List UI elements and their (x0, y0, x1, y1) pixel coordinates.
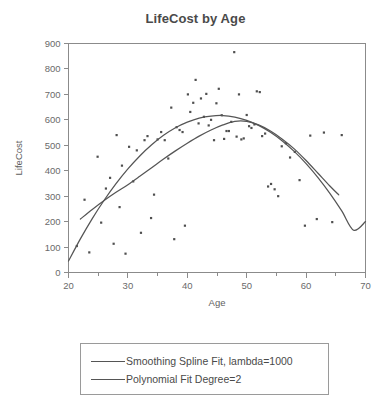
data-point (240, 138, 242, 140)
data-point (105, 187, 107, 189)
x-tick-label: 50 (241, 280, 252, 291)
data-point (248, 125, 250, 127)
data-point (197, 122, 199, 124)
data-point (192, 102, 194, 104)
data-point (205, 93, 207, 95)
data-point (259, 91, 261, 93)
data-point (341, 134, 343, 136)
data-point (113, 243, 115, 245)
data-point (215, 102, 217, 104)
legend-swatch-spline (91, 361, 125, 362)
data-point (195, 79, 197, 81)
legend-label-polynomial: Polynomial Fit Degree=2 (126, 373, 241, 385)
data-point (298, 179, 300, 181)
y-tick-label: 500 (45, 140, 61, 151)
data-point (189, 111, 191, 113)
data-point (100, 222, 102, 224)
data-point (270, 183, 272, 185)
data-point (243, 137, 245, 139)
data-point (88, 251, 90, 253)
data-point (150, 217, 152, 219)
data-point (140, 232, 142, 234)
legend-item-spline[interactable]: Smoothing Spline Fit, lambda=1000 (91, 354, 293, 368)
data-point (97, 156, 99, 158)
legend-item-polynomial[interactable]: Polynomial Fit Degree=2 (91, 372, 241, 386)
y-tick-label: 900 (45, 38, 61, 49)
data-point (250, 127, 252, 129)
data-point (261, 135, 263, 137)
x-tick-label: 40 (182, 280, 193, 291)
data-point (246, 114, 248, 116)
data-point (316, 218, 318, 220)
data-point (264, 132, 266, 134)
data-point (213, 139, 215, 141)
y-axis-title: LifeCost (13, 140, 24, 175)
data-point (233, 51, 235, 53)
data-point (128, 146, 130, 148)
y-tick-label: 800 (45, 63, 61, 74)
data-point (225, 130, 227, 132)
data-point (256, 90, 258, 92)
x-tick-label: 30 (123, 280, 134, 291)
x-tick-label: 20 (63, 280, 74, 291)
data-point (289, 156, 291, 158)
data-point (187, 93, 189, 95)
data-point (277, 195, 279, 197)
y-tick-label: 300 (45, 191, 61, 202)
data-point (83, 199, 85, 201)
data-point (304, 225, 306, 227)
x-axis-title: Age (209, 297, 226, 308)
fit-curve-polynomial (69, 115, 366, 261)
y-tick-label: 200 (45, 216, 61, 227)
data-point (164, 139, 166, 141)
data-point (146, 135, 148, 137)
data-point (200, 97, 202, 99)
data-point (121, 165, 123, 167)
x-tick-label: 60 (301, 280, 312, 291)
chart-legend: Smoothing Spline Fit, lambda=1000 Polyno… (80, 343, 329, 395)
data-point (208, 124, 210, 126)
data-point (153, 194, 155, 196)
data-point (281, 145, 283, 147)
data-point (331, 221, 333, 223)
plot-svg: 0100200300400500600700800900203040506070… (0, 0, 391, 340)
data-point (173, 238, 175, 240)
legend-label-spline: Smoothing Spline Fit, lambda=1000 (126, 355, 293, 367)
fit-curve-spline (80, 121, 338, 219)
data-point (184, 225, 186, 227)
legend-swatch-polynomial (91, 379, 125, 380)
data-point (274, 188, 276, 190)
data-point (116, 134, 118, 136)
data-point (210, 119, 212, 121)
x-tick-label: 70 (360, 280, 371, 291)
data-point (124, 253, 126, 255)
plot-frame (69, 44, 366, 273)
data-point (267, 185, 269, 187)
y-tick-label: 100 (45, 242, 61, 253)
data-point (228, 130, 230, 132)
data-point (118, 206, 120, 208)
data-point (136, 149, 138, 151)
data-point (143, 139, 145, 141)
y-tick-label: 600 (45, 114, 61, 125)
data-point (160, 131, 162, 133)
data-point (323, 131, 325, 133)
data-point (236, 136, 238, 138)
data-point (181, 131, 183, 133)
y-tick-label: 700 (45, 89, 61, 100)
data-point (109, 177, 111, 179)
data-point (309, 135, 311, 137)
data-point (218, 88, 220, 90)
y-tick-label: 400 (45, 165, 61, 176)
data-point (170, 107, 172, 109)
data-point (238, 93, 240, 95)
data-point (178, 129, 180, 131)
y-tick-label: 0 (55, 267, 60, 278)
data-point (167, 157, 169, 159)
data-point (223, 138, 225, 140)
